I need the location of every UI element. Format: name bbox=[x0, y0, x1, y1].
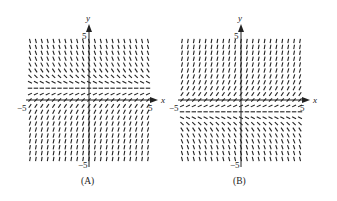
slope-segment bbox=[29, 51, 30, 55]
slope-segment bbox=[135, 110, 137, 114]
slope-segment bbox=[210, 122, 213, 125]
slope-segment bbox=[193, 57, 194, 61]
slope-segment bbox=[288, 151, 289, 155]
slope-segment bbox=[276, 57, 277, 61]
slope-segment bbox=[128, 93, 132, 95]
slope-segment bbox=[30, 157, 31, 161]
slope-segment bbox=[270, 86, 272, 90]
slope-segment bbox=[106, 45, 107, 49]
slope-segment bbox=[34, 93, 38, 95]
slope-segment bbox=[246, 51, 247, 55]
slope-segment bbox=[246, 86, 248, 90]
slope-segment bbox=[134, 81, 138, 83]
slope-segment bbox=[100, 151, 101, 155]
slope-segment bbox=[281, 80, 283, 84]
slope-segment bbox=[300, 51, 301, 55]
slope-segment bbox=[130, 127, 131, 131]
slope-segment bbox=[147, 69, 149, 73]
slope-segment bbox=[293, 92, 295, 96]
slope-segment bbox=[111, 81, 115, 83]
slope-segment bbox=[41, 39, 42, 43]
slope-segment bbox=[100, 145, 101, 149]
slope-segment bbox=[59, 57, 61, 61]
slope-segment bbox=[298, 122, 301, 125]
y-axis-arrow-icon bbox=[86, 24, 92, 32]
slope-segment bbox=[140, 93, 144, 95]
slope-segment bbox=[95, 151, 96, 155]
slope-segment bbox=[235, 45, 236, 49]
slope-segment bbox=[41, 116, 43, 120]
slope-segment bbox=[222, 86, 224, 90]
slope-segment bbox=[136, 39, 137, 43]
slope-segment bbox=[193, 92, 195, 96]
slope-segment bbox=[41, 133, 42, 137]
slope-segment bbox=[65, 139, 66, 143]
slope-segment bbox=[136, 127, 137, 131]
slope-segment bbox=[112, 116, 114, 120]
slope-segment bbox=[128, 81, 132, 83]
slope-segment bbox=[187, 128, 189, 132]
slope-segment bbox=[147, 45, 148, 49]
slope-segment bbox=[70, 104, 72, 108]
slope-segment bbox=[35, 110, 37, 114]
slope-segment bbox=[257, 122, 260, 125]
slope-segment bbox=[124, 39, 125, 43]
slope-segment bbox=[287, 128, 289, 132]
slope-segment bbox=[135, 69, 137, 73]
slope-segment bbox=[136, 51, 137, 55]
slope-segment bbox=[29, 63, 31, 67]
slope-segment bbox=[46, 75, 49, 78]
slope-segment bbox=[299, 139, 301, 143]
slope-segment bbox=[129, 57, 131, 61]
y-tick-pos5: 5 bbox=[82, 31, 87, 41]
slope-segment bbox=[129, 104, 131, 108]
slope-segment bbox=[282, 145, 283, 149]
slope-segment bbox=[35, 104, 37, 108]
slope-segment bbox=[182, 57, 183, 61]
slope-segment bbox=[247, 45, 248, 49]
slope-segment bbox=[29, 39, 30, 43]
slope-segment bbox=[65, 39, 66, 43]
slope-segment bbox=[142, 45, 143, 49]
slope-segment bbox=[35, 51, 36, 55]
slope-segment bbox=[217, 62, 218, 66]
slope-segment bbox=[251, 117, 255, 119]
slope-segment bbox=[199, 133, 201, 137]
slope-segment bbox=[142, 139, 143, 143]
slope-segment bbox=[223, 68, 224, 72]
slope-segment bbox=[82, 63, 84, 67]
slope-segment bbox=[293, 128, 295, 132]
slope-segment bbox=[123, 104, 125, 108]
slope-segment bbox=[234, 80, 236, 84]
slope-segment bbox=[182, 39, 183, 43]
slope-segment bbox=[193, 45, 194, 49]
slope-segment bbox=[299, 133, 301, 137]
slope-segment bbox=[187, 51, 188, 55]
slope-segment bbox=[76, 116, 78, 120]
panel-a-caption: (A) bbox=[81, 176, 94, 186]
slope-segment bbox=[252, 86, 254, 90]
slope-segment bbox=[199, 151, 200, 155]
slope-segment bbox=[193, 39, 194, 43]
slope-segment bbox=[180, 105, 184, 107]
slope-segment bbox=[135, 75, 138, 78]
slope-segment bbox=[292, 105, 296, 107]
slope-segment bbox=[252, 151, 253, 155]
slope-segment bbox=[234, 86, 236, 90]
slope-segment bbox=[58, 93, 62, 95]
slope-segment bbox=[264, 39, 265, 43]
slope-segment bbox=[247, 39, 248, 43]
slope-segment bbox=[147, 57, 149, 61]
slope-segment bbox=[210, 105, 214, 107]
slope-segment bbox=[71, 157, 72, 161]
slope-segment bbox=[69, 81, 73, 83]
slope-segment bbox=[223, 45, 224, 49]
slope-segment bbox=[187, 151, 188, 155]
slope-segment bbox=[52, 93, 56, 95]
slope-segment bbox=[222, 92, 224, 96]
slope-segment bbox=[223, 74, 224, 78]
slope-segment bbox=[53, 122, 54, 126]
slope-segment bbox=[58, 104, 60, 108]
slope-segment bbox=[288, 62, 289, 66]
slope-segment bbox=[251, 105, 255, 107]
